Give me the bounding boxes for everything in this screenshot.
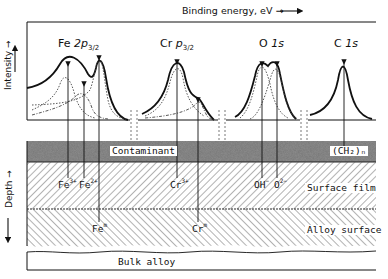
species-oh: OH− <box>254 180 269 190</box>
binding-energy-axis-label: Binding energy, eV → <box>182 6 283 16</box>
layer-label-bulk-alloy: Bulk alloy <box>118 257 175 267</box>
spectrum-panel <box>15 11 376 140</box>
fe-spectrum <box>27 57 128 120</box>
species-fem: Fem <box>92 224 107 234</box>
species-o2: O2− <box>274 180 287 190</box>
o-spectrum <box>235 62 298 119</box>
layer-stack <box>8 141 376 270</box>
fe-spectrum-title: Fe 2p3/2 <box>58 38 99 52</box>
layer-label-contaminant: Contaminant <box>110 146 177 156</box>
cr-spectrum <box>142 63 214 120</box>
xps-depth-diagram: Binding energy, eV → Intensity → Depth →… <box>0 0 388 279</box>
layer-label-alloy-surface: Alloy surface <box>305 225 383 235</box>
o-spectrum-title: O 1s <box>259 38 284 49</box>
species-fe3: Fe3+ <box>58 180 77 190</box>
c-spectrum-title: C 1s <box>334 38 358 49</box>
c-spectrum <box>310 67 372 120</box>
layer-label-surface-film: Surface film <box>305 183 378 193</box>
depth-axis-label: Depth → <box>4 170 14 208</box>
species-crm: Crm <box>192 224 207 234</box>
species-ch2n: (CH₂)ₙ <box>330 146 368 156</box>
species-cr3: Cr3+ <box>170 180 189 190</box>
cr-spectrum-title: Cr p3/2 <box>160 38 194 52</box>
species-fe2: Fe2+ <box>79 180 98 190</box>
axis-break-marks <box>131 110 307 140</box>
intensity-axis-label: Intensity → <box>3 40 13 90</box>
